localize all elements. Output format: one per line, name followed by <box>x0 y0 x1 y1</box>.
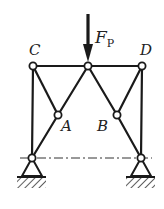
joint-C <box>29 62 36 69</box>
joint-D <box>138 62 145 69</box>
label-C: C <box>29 41 41 59</box>
label-D: D <box>139 41 152 59</box>
link-B-O2 <box>117 115 141 158</box>
force-arrow-icon <box>83 14 93 62</box>
joint-O1 <box>28 154 35 161</box>
link-DB <box>117 66 142 115</box>
force-label: FP <box>94 27 115 50</box>
link-A-O1 <box>32 115 58 158</box>
force-label-sub: P <box>107 37 115 50</box>
joint-O2 <box>137 154 144 161</box>
link-EA <box>58 66 88 115</box>
joint-B <box>113 111 120 118</box>
link-D-O2 <box>141 66 142 158</box>
linkage-diagram: FP C D A B <box>0 0 164 209</box>
joint-E <box>84 62 91 69</box>
links <box>32 66 142 158</box>
link-C-O1 <box>32 66 33 158</box>
joints <box>28 62 145 161</box>
link-EB <box>88 66 117 115</box>
label-B: B <box>96 117 108 135</box>
label-A: A <box>59 117 72 135</box>
pin-support-left <box>17 158 46 188</box>
link-CA <box>33 66 58 115</box>
pin-support-right <box>126 158 155 188</box>
